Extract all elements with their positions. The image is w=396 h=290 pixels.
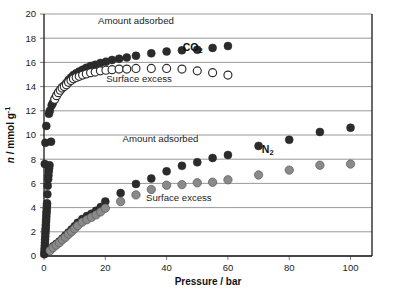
annotation-co2-amount-adsorbed: Amount adsorbed <box>98 15 174 26</box>
ytick-label-6: 6 <box>31 178 36 189</box>
data-point <box>163 167 171 175</box>
data-point <box>115 65 123 73</box>
scatter-plot-canvas: 02468101214161820020406080100 Amount ads… <box>0 0 396 290</box>
ytick-label-2: 2 <box>31 226 36 237</box>
data-point <box>108 56 116 64</box>
data-point <box>116 197 124 205</box>
data-point <box>209 44 217 52</box>
data-point <box>224 151 232 159</box>
data-point <box>132 64 140 72</box>
data-point <box>147 49 155 57</box>
data-point <box>224 176 232 184</box>
data-point <box>316 128 324 136</box>
data-point <box>115 55 123 63</box>
xtick-label-40: 40 <box>161 262 172 273</box>
data-point <box>178 65 186 73</box>
annotation-n2-surface-excess: Surface excess <box>146 192 212 203</box>
data-point <box>285 166 293 174</box>
ytick-label-18: 18 <box>25 33 36 44</box>
data-point <box>147 64 155 72</box>
data-point <box>46 161 54 169</box>
data-point <box>347 124 355 132</box>
xtick-label-80: 80 <box>284 262 295 273</box>
data-point <box>163 48 171 56</box>
data-point <box>316 161 324 169</box>
x-axis-title: Pressure / bar <box>175 276 242 287</box>
data-point <box>224 71 232 79</box>
data-point <box>193 67 201 75</box>
data-point <box>178 162 186 170</box>
annotation-n2-amount-adsorbed: Amount adsorbed <box>123 133 199 144</box>
data-point <box>123 65 131 73</box>
data-point <box>132 180 140 188</box>
data-point <box>117 189 125 197</box>
ytick-label-4: 4 <box>31 202 36 213</box>
ytick-label-14: 14 <box>25 81 36 92</box>
data-point <box>209 69 217 77</box>
data-point <box>346 160 354 168</box>
data-point <box>163 64 171 72</box>
xtick-label-0: 0 <box>41 262 46 273</box>
data-point <box>162 181 170 189</box>
ytick-label-0: 0 <box>31 250 36 261</box>
data-point <box>47 138 55 146</box>
data-point <box>101 204 109 212</box>
data-point <box>254 171 262 179</box>
xtick-label-60: 60 <box>223 262 234 273</box>
data-point <box>132 52 140 60</box>
data-point <box>285 136 293 144</box>
xtick-label-100: 100 <box>343 262 359 273</box>
xtick-label-20: 20 <box>100 262 111 273</box>
ytick-label-8: 8 <box>31 154 36 165</box>
data-point <box>178 180 186 188</box>
data-point <box>123 54 131 62</box>
data-point <box>208 178 216 186</box>
data-point <box>147 175 155 183</box>
annotation-co2-surface-excess: Surface excess <box>106 73 172 84</box>
adsorption-isotherm-figure: 02468101214161820020406080100 Amount ads… <box>0 0 396 290</box>
ytick-label-10: 10 <box>25 129 36 140</box>
data-point <box>42 122 50 130</box>
data-point <box>224 42 232 50</box>
data-point <box>43 190 51 198</box>
y-axis-title: n / mmol g-1 <box>3 107 16 163</box>
data-point <box>209 154 217 162</box>
data-point <box>193 158 201 166</box>
ytick-label-16: 16 <box>25 57 36 68</box>
data-point <box>43 199 51 207</box>
data-point <box>132 191 140 199</box>
ytick-label-20: 20 <box>25 8 36 19</box>
ytick-label-12: 12 <box>25 105 36 116</box>
data-point <box>193 179 201 187</box>
